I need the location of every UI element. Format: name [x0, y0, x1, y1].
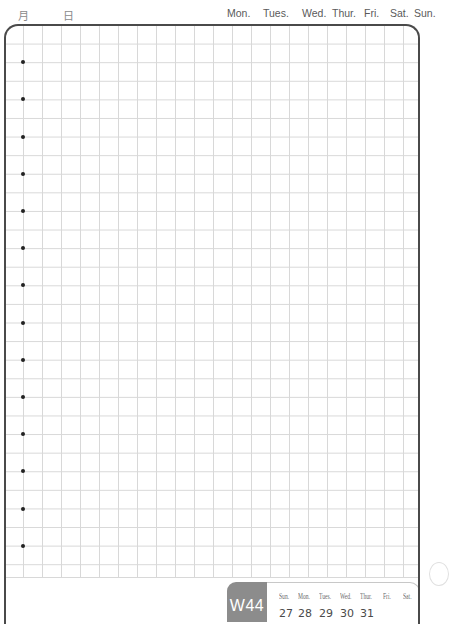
bullet-dot [21, 135, 25, 139]
week-number-badge: W44 [227, 582, 267, 622]
day-label: 日 [63, 7, 74, 23]
weekday-fri[interactable]: Fri. [364, 7, 379, 19]
page-tab-edge [429, 562, 449, 586]
mini-cal-date[interactable]: 28 [298, 607, 312, 620]
weekday-tue[interactable]: Tues. [263, 7, 289, 19]
weekday-sun[interactable]: Sun. [414, 7, 436, 19]
mini-cal-date[interactable]: 27 [279, 607, 293, 620]
mini-cal-day-sat: Sat. [403, 592, 412, 601]
mini-cal-day-fri: Fri. [383, 592, 391, 601]
weekday-header: Mon. Tues. Wed. Thur. Fri. Sat. Sun. [227, 7, 436, 23]
weekday-wed[interactable]: Wed. [302, 7, 326, 19]
mini-cal-day-mon: Mon. [298, 592, 310, 601]
mini-cal-date[interactable]: 29 [319, 607, 333, 620]
bullet-dot [21, 172, 25, 176]
bullet-dot [21, 358, 25, 362]
bullet-dot [21, 544, 25, 548]
bullet-dot [21, 395, 25, 399]
planner-page-frame: W44 Sun. Mon. Tues. Wed. Thur. Fri. Sat.… [4, 24, 420, 624]
weekday-mon[interactable]: Mon. [227, 7, 250, 19]
bullet-dot [21, 321, 25, 325]
mini-cal-day-wed: Wed. [340, 592, 352, 601]
weekday-thu[interactable]: Thur. [332, 7, 356, 19]
mini-cal-date[interactable]: 31 [360, 607, 374, 620]
weekday-sat[interactable]: Sat. [390, 7, 409, 19]
mini-cal-day-tue: Tues. [319, 592, 331, 601]
mini-cal-date[interactable]: 30 [340, 607, 354, 620]
grid-area[interactable] [6, 26, 420, 578]
mini-cal-day-thu: Thur. [360, 592, 372, 601]
month-label: 月 [18, 7, 29, 23]
mini-calendar: Sun. Mon. Tues. Wed. Thur. Fri. Sat. 27 … [267, 582, 420, 622]
mini-cal-day-sun: Sun. [279, 592, 289, 601]
bullet-dot [21, 209, 25, 213]
week-footer: W44 Sun. Mon. Tues. Wed. Thur. Fri. Sat.… [227, 582, 420, 622]
bullet-dot [21, 507, 25, 511]
